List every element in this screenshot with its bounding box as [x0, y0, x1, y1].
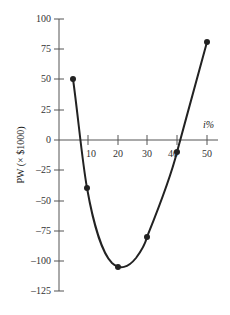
- svg-text:20: 20: [113, 148, 123, 159]
- svg-text:–75: –75: [35, 225, 51, 236]
- svg-text:30: 30: [142, 148, 152, 159]
- svg-text:50: 50: [41, 73, 51, 84]
- chart: 100 75 50 25 0 –25 –50 –75 –100 –125 10 …: [0, 0, 230, 315]
- svg-text:50: 50: [202, 148, 212, 159]
- svg-text:0: 0: [46, 134, 51, 145]
- svg-text:–50: –50: [35, 195, 51, 206]
- svg-text:100: 100: [36, 13, 51, 24]
- x-tick-labels: 10 20 30 40 50: [86, 148, 212, 159]
- svg-text:–25: –25: [35, 164, 51, 175]
- svg-text:75: 75: [41, 43, 51, 54]
- svg-text:25: 25: [41, 104, 51, 115]
- svg-text:10: 10: [86, 148, 96, 159]
- x-axis-label: i%: [203, 119, 214, 130]
- svg-text:–125: –125: [30, 285, 51, 296]
- y-tick-labels: 100 75 50 25 0 –25 –50 –75 –100 –125: [30, 13, 51, 296]
- svg-text:–100: –100: [30, 255, 51, 266]
- y-axis-label: PW (× $1000): [15, 126, 27, 183]
